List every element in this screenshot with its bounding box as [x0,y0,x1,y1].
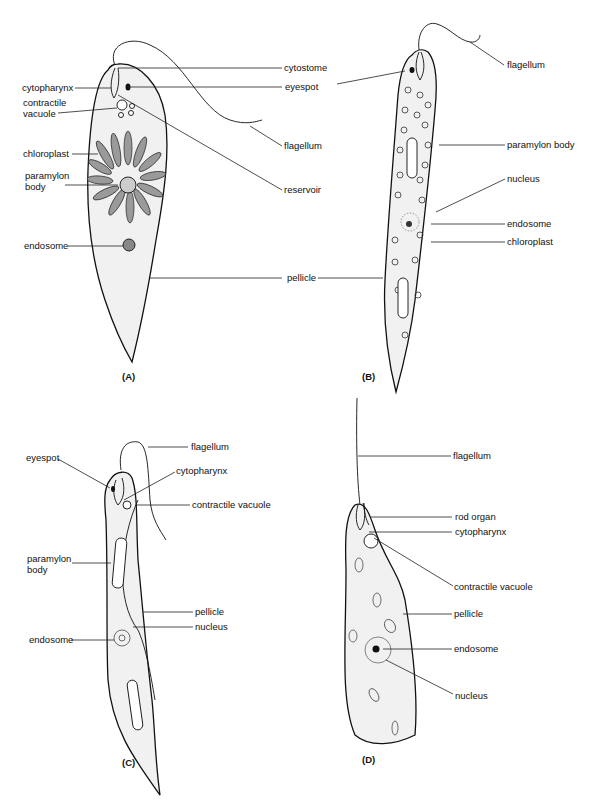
panel-b: flagellum paramylon body nucleus endosom… [318,23,575,392]
label-chloroplast-b: chloroplast [507,236,553,247]
panel-d: flagellum rod organ cytopharynx contract… [345,398,533,765]
label-cytopharynx: cytopharynx [22,82,73,93]
label-endosome-b: endosome [507,218,551,229]
label-endosome-c: endosome [29,634,73,645]
label-rod-organ-d: rod organ [455,511,496,522]
label-cytostome: cytostome [284,62,327,73]
flagellum-b [419,23,480,55]
endosome-d [373,646,380,653]
panel-caption-b: (B) [362,371,375,382]
label-chloroplast: chloroplast [23,148,69,159]
cell-body-c [105,472,160,795]
label-eyespot-c: eyespot [26,452,60,463]
paramylon-body-a [120,177,136,193]
contractile-vacuole-a [117,100,127,110]
panel-a: cytostome eyespot cytopharynx contractil… [22,41,327,382]
label-flagellum-c: flagellum [191,441,229,452]
panel-caption-d: (D) [362,754,375,765]
endosome-b [406,221,412,227]
label-nucleus-b: nucleus [507,173,540,184]
label-flagellum: flagellum [284,140,322,151]
label-vacuole: vacuole [23,108,56,119]
paramylon-body-b [407,138,417,178]
label-nucleus-d: nucleus [455,690,488,701]
label-cytopharynx-d: cytopharynx [455,526,506,537]
label-flagellum-b: flagellum [507,59,545,70]
label-eyespot: eyespot [285,81,319,92]
label-pellicle: pellicle [287,272,316,283]
label-paramylon-body-b: paramylon body [507,139,575,150]
label-contractile-vacuole-d: contractile vacuole [454,581,533,592]
label-contractile: contractile [23,97,66,108]
panel-c: flagellum eyespot cytopharynx contractil… [26,441,271,795]
cell-body-b [385,50,437,392]
panel-caption-c: (C) [122,757,135,768]
label-contractile-vacuole-c: contractile vacuole [192,499,271,510]
panel-caption-a: (A) [122,371,135,382]
label-endosome: endosome [24,240,68,251]
label-paramylon: paramylon [25,170,69,181]
eyespot-b [410,67,415,73]
label-nucleus-c: nucleus [195,621,228,632]
contractile-vacuole-c [123,501,131,509]
label-pellicle-d: pellicle [454,608,483,619]
euglena-figure: cytostome eyespot cytopharynx contractil… [0,0,596,811]
label-cytopharynx-c: cytopharynx [176,465,227,476]
label-body-c: body [27,564,48,575]
label-pellicle-c: pellicle [195,606,224,617]
flagellum-d [357,398,360,505]
label-flagellum-d: flagellum [453,450,491,461]
label-endosome-d: endosome [454,643,498,654]
eyespot-c [111,486,115,492]
cell-body-d [345,504,416,744]
label-paramylon-c: paramylon [27,553,71,564]
label-body: body [25,181,46,192]
label-reservoir: reservoir [284,184,321,195]
endosome-a [123,239,135,251]
contractile-vacuole-d [364,534,378,548]
